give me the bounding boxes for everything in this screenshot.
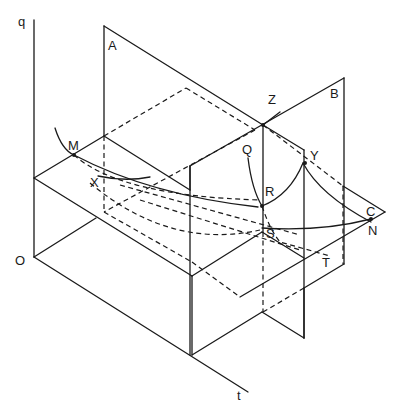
t-axis	[34, 257, 248, 392]
label-r: R	[265, 184, 274, 199]
label-m: M	[68, 138, 79, 153]
points	[72, 123, 373, 221]
dashed-upper-plane	[104, 88, 343, 312]
label-b: B	[330, 86, 339, 101]
diagram-canvas: q O t A B Z M X Q R Y S T C N	[0, 0, 403, 417]
point-y	[303, 161, 307, 165]
label-t: t	[237, 388, 241, 403]
curve-x-dashed	[90, 183, 260, 235]
label-t-point: T	[322, 255, 330, 270]
curve-yc	[303, 163, 371, 222]
label-s: S	[266, 226, 275, 241]
plane-b	[190, 78, 344, 288]
label-a: A	[108, 38, 117, 53]
curve-mx-dashed	[74, 155, 260, 200]
label-z: Z	[268, 92, 276, 107]
label-c: C	[366, 204, 375, 219]
point-z	[261, 123, 265, 127]
horizontal-plane	[34, 136, 385, 355]
labels: q O t A B Z M X Q R Y S T C N	[15, 14, 377, 403]
curve-qr	[248, 158, 262, 206]
curve-sn	[262, 219, 371, 229]
point-r	[260, 204, 264, 208]
label-o: O	[15, 253, 25, 268]
label-q: q	[18, 14, 25, 29]
point-m	[72, 153, 76, 157]
label-x: X	[90, 175, 99, 190]
axes	[34, 20, 248, 392]
label-q-point: Q	[242, 142, 252, 157]
label-y: Y	[310, 148, 319, 163]
curves	[55, 128, 371, 256]
label-n: N	[368, 223, 377, 238]
